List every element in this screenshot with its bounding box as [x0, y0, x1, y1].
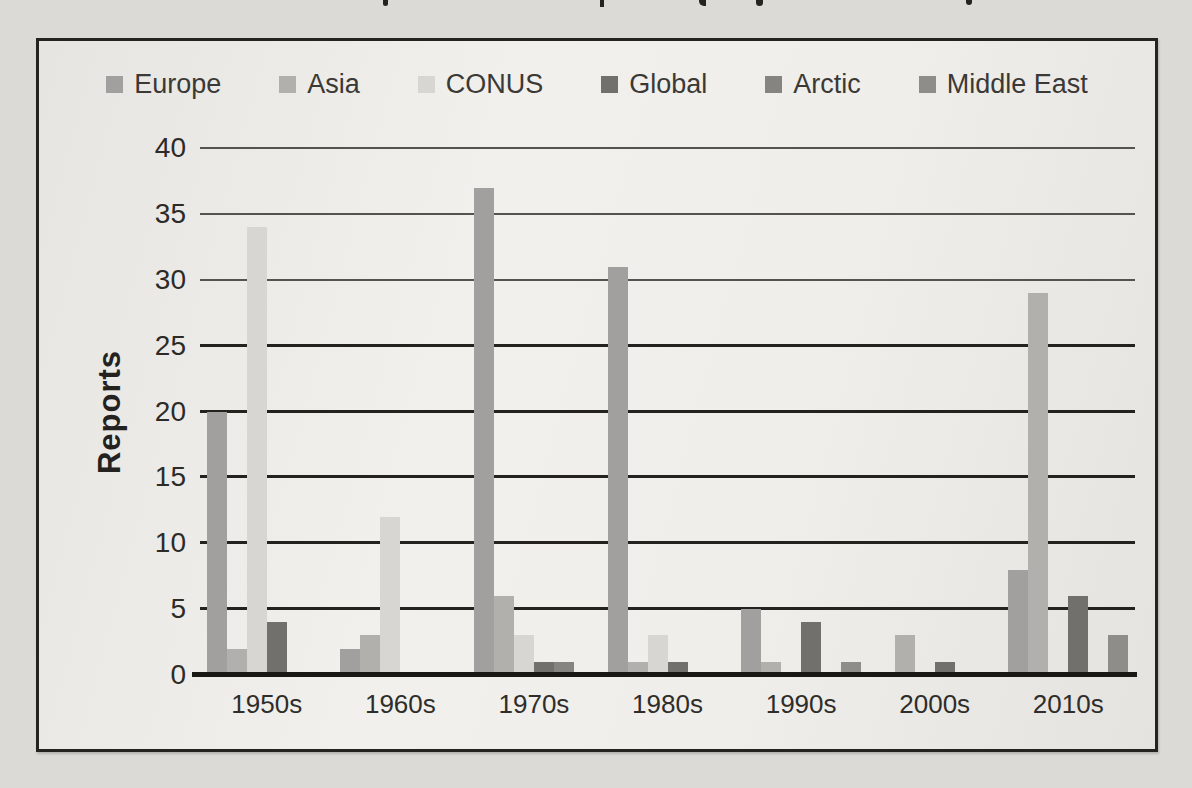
bar-europe [608, 267, 628, 675]
x-axis-labels: 1950s1960s1970s1980s1990s2000s2010s [200, 689, 1135, 720]
bar-global [801, 622, 821, 675]
x-axis-baseline [192, 672, 1137, 677]
bar-conus [514, 635, 534, 675]
text-descender-mark [383, 0, 388, 6]
legend-label: CONUS [446, 69, 544, 100]
x-tick-label: 1960s [334, 689, 468, 720]
bar-conus [380, 517, 400, 675]
legend-swatch-icon [279, 76, 296, 93]
bar-conus [648, 635, 668, 675]
y-tick-label: 40 [106, 132, 186, 164]
bar-global [267, 622, 287, 675]
plot-area [200, 148, 1135, 675]
page-background: { "page": { "cropped_top_text": "illegib… [0, 0, 1192, 788]
bar-asia [895, 635, 915, 675]
bar-group-1990s [734, 148, 868, 675]
bar-asia [360, 635, 380, 675]
legend-swatch-icon [106, 76, 123, 93]
bar-groups [200, 148, 1135, 675]
y-axis-labels: 0510152025303540 [39, 148, 194, 675]
legend-item: Global [601, 69, 707, 100]
legend-label: Europe [134, 69, 221, 100]
bar-europe [741, 609, 761, 675]
legend-item: Europe [106, 69, 221, 100]
bar-asia [494, 596, 514, 675]
y-tick-label: 0 [106, 659, 186, 691]
y-tick-label: 30 [106, 264, 186, 296]
legend-label: Global [629, 69, 707, 100]
bar-asia [1028, 293, 1048, 675]
legend: EuropeAsiaCONUSGlobalArcticMiddle East [39, 69, 1155, 100]
y-tick-label: 20 [106, 396, 186, 428]
legend-item: CONUS [418, 69, 544, 100]
y-tick-label: 15 [106, 461, 186, 493]
bar-group-2000s [868, 148, 1002, 675]
legend-swatch-icon [919, 76, 936, 93]
legend-swatch-icon [765, 76, 782, 93]
x-tick-label: 1980s [601, 689, 735, 720]
bar-europe [1008, 570, 1028, 675]
bar-middle-east [1108, 635, 1128, 675]
y-tick-label: 10 [106, 527, 186, 559]
legend-swatch-icon [601, 76, 618, 93]
bar-group-1980s [601, 148, 735, 675]
text-descender-mark [966, 0, 972, 5]
chart-frame: EuropeAsiaCONUSGlobalArcticMiddle East R… [36, 38, 1158, 752]
legend-label: Arctic [793, 69, 861, 100]
bar-europe [474, 188, 494, 675]
bar-global [1068, 596, 1088, 675]
bar-group-1950s [200, 148, 334, 675]
bar-group-2010s [1001, 148, 1135, 675]
text-descender-mark [756, 0, 763, 6]
x-tick-label: 1970s [467, 689, 601, 720]
x-tick-label: 2010s [1001, 689, 1135, 720]
bar-conus [247, 227, 267, 675]
legend-item: Asia [279, 69, 360, 100]
x-tick-label: 1990s [734, 689, 868, 720]
bar-group-1970s [467, 148, 601, 675]
text-descender-mark [699, 0, 706, 6]
bar-group-1960s [334, 148, 468, 675]
x-tick-label: 2000s [868, 689, 1002, 720]
y-tick-label: 25 [106, 330, 186, 362]
y-tick-label: 35 [106, 198, 186, 230]
legend-label: Middle East [947, 69, 1088, 100]
bar-europe [207, 412, 227, 676]
legend-item: Middle East [919, 69, 1088, 100]
y-tick-label: 5 [106, 593, 186, 625]
text-descender-mark [600, 0, 604, 7]
legend-item: Arctic [765, 69, 861, 100]
x-tick-label: 1950s [200, 689, 334, 720]
screenshot-canvas: EuropeAsiaCONUSGlobalArcticMiddle East R… [0, 0, 1192, 788]
legend-swatch-icon [418, 76, 435, 93]
legend-label: Asia [307, 69, 360, 100]
